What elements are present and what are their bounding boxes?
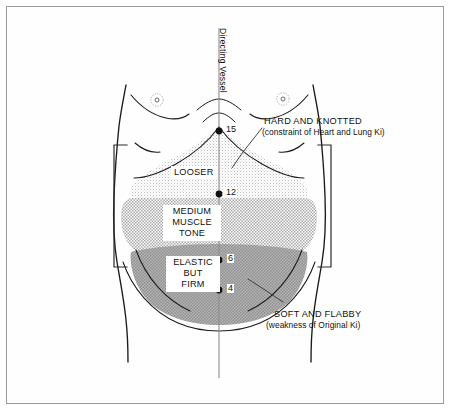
point-dv15[interactable] <box>216 128 223 135</box>
annotation-hard-knotted-title: HARD AND KNOTTED <box>264 117 362 127</box>
point-label-dv4: 4 <box>227 284 234 293</box>
zone-label-medium-line-3: TONE <box>166 228 218 239</box>
point-dv12[interactable] <box>216 191 223 198</box>
directing-vessel-label: Directing Vessel <box>218 28 228 93</box>
zone-label-medium-muscle-tone: MEDIUM MUSCLE TONE <box>163 205 221 241</box>
zone-label-elastic-line-2: BUT <box>169 268 217 279</box>
zone-label-medium-line-2: MUSCLE <box>166 217 218 228</box>
zone-label-looser: LOOSER <box>171 166 217 179</box>
annotation-soft-flabby-subtitle: (weakness of Original Ki) <box>266 321 360 330</box>
annotation-hard-knotted-subtitle: (constraint of Heart and Lung Ki) <box>262 128 385 137</box>
nipple-marker-right <box>277 93 289 105</box>
annotation-soft-flabby-title: SOFT AND FLABBY <box>274 310 361 320</box>
right-bracket <box>318 145 331 267</box>
zone-label-elastic-but-firm: ELASTIC BUT FIRM <box>166 256 220 292</box>
zone-label-elastic-line-3: FIRM <box>169 279 217 290</box>
nipple-marker-left <box>151 94 163 106</box>
zone-label-elastic-line-1: ELASTIC <box>169 257 217 268</box>
diagram-page: Directing Vessel 15 12 6 4 LOOSER MEDIUM… <box>0 0 451 411</box>
point-label-dv6: 6 <box>227 254 234 263</box>
point-label-dv12: 12 <box>225 188 237 197</box>
zone-label-medium-line-1: MEDIUM <box>166 206 218 217</box>
point-label-dv15: 15 <box>225 125 237 134</box>
